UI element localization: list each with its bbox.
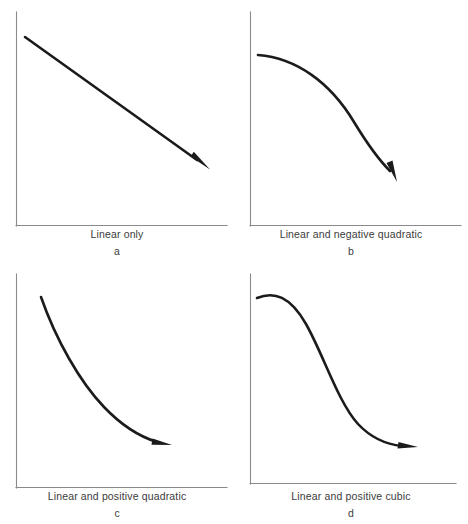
figure-panel-grid: Linear only a Linear and n: [0, 0, 468, 524]
curve-b: [258, 55, 397, 182]
arrowhead-c: [152, 439, 173, 446]
panel-b: Linear and negative quadratic b: [234, 0, 468, 262]
plot-area-c: [0, 262, 234, 494]
panel-d-letter: d: [234, 507, 468, 519]
trend-line-d: [257, 295, 402, 446]
trend-line-a: [25, 37, 197, 160]
axes-a: [16, 12, 227, 226]
panel-b-caption: Linear and negative quadratic: [234, 228, 468, 241]
curve-d: [257, 295, 418, 448]
plot-area-a: [0, 0, 234, 232]
plot-area-b: [234, 0, 468, 232]
panel-d-caption: Linear and positive cubic: [234, 490, 468, 503]
plot-area-d: [234, 262, 468, 494]
arrowhead-b: [387, 161, 398, 183]
panel-d: Linear and positive cubic d: [234, 262, 468, 524]
panel-c-caption: Linear and positive quadratic: [0, 490, 234, 503]
arrowhead-a: [191, 152, 211, 170]
panel-b-captions: Linear and negative quadratic b: [234, 228, 468, 257]
curve-a: [25, 37, 210, 170]
panel-a-letter: a: [0, 245, 234, 257]
axes-c: [16, 274, 227, 488]
panel-a-caption: Linear only: [0, 228, 234, 241]
panel-d-captions: Linear and positive cubic d: [234, 490, 468, 519]
arrowhead-d: [398, 442, 419, 449]
panel-grid: Linear only a Linear and n: [0, 0, 468, 524]
panel-c: Linear and positive quadratic c: [0, 262, 234, 524]
panel-a-captions: Linear only a: [0, 228, 234, 257]
trend-line-b: [258, 55, 390, 171]
curve-c: [41, 297, 172, 445]
axes-b: [250, 12, 461, 226]
panel-c-letter: c: [0, 507, 234, 519]
trend-line-c: [41, 297, 157, 442]
panel-a: Linear only a: [0, 0, 234, 262]
panel-c-captions: Linear and positive quadratic c: [0, 490, 234, 519]
axes-d: [250, 274, 456, 484]
panel-b-letter: b: [234, 245, 468, 257]
